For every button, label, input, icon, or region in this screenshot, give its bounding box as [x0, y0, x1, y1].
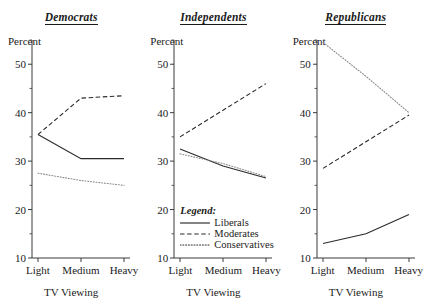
- y-tick-label: 30: [2, 155, 26, 167]
- series-line-conservatives: [38, 173, 124, 185]
- series-line-liberals: [180, 149, 266, 178]
- panel-title-independents: Independents: [142, 11, 284, 23]
- x-tick-label: Light: [311, 264, 335, 276]
- y-tick-label: 10: [144, 252, 168, 264]
- y-tick-label: 40: [287, 107, 311, 119]
- plot-svg: [32, 40, 130, 258]
- panel-title-republicans: Republicans: [285, 11, 427, 23]
- x-tick-label: Medium: [62, 264, 99, 276]
- y-tick-label: 20: [287, 204, 311, 216]
- y-tick-label: 50: [287, 58, 311, 70]
- y-tick-label: 40: [2, 107, 26, 119]
- series-line-moderates: [38, 96, 124, 135]
- y-tick-label: 20: [2, 204, 26, 216]
- legend-item-liberals: Liberals: [180, 217, 274, 228]
- y-tick-label: 30: [287, 155, 311, 167]
- panel-title-text: Republicans: [325, 11, 386, 25]
- three-panel-line-chart-figure: Democrats Percent 1020304050LightMediumH…: [0, 0, 427, 304]
- x-tick-label: Heavy: [110, 264, 139, 276]
- series-line-moderates: [180, 84, 266, 137]
- legend-item-conservatives: Conservatives: [180, 239, 274, 250]
- y-tick-label: 30: [144, 155, 168, 167]
- legend-item-moderates: Moderates: [180, 228, 274, 239]
- legend-swatch-dotted: [180, 240, 210, 249]
- legend-label-conservatives: Conservatives: [214, 239, 274, 250]
- x-tick-label: Light: [168, 264, 192, 276]
- legend: Legend: Liberals Moderates Conservatives: [180, 205, 274, 250]
- y-tick-label: 50: [144, 58, 168, 70]
- legend-swatch-dashed: [180, 229, 210, 238]
- plot-area-republicans: 1020304050LightMediumHeavy: [317, 40, 415, 258]
- legend-label-liberals: Liberals: [214, 217, 248, 228]
- x-tick-label: Heavy: [252, 264, 281, 276]
- panel-democrats: Democrats Percent 1020304050LightMediumH…: [0, 0, 142, 304]
- x-tick-label: Light: [26, 264, 50, 276]
- y-tick-label: 10: [287, 252, 311, 264]
- y-tick-label: 20: [144, 204, 168, 216]
- x-axis-label: TV Viewing: [285, 286, 427, 298]
- series-line-liberals: [38, 134, 124, 158]
- series-line-liberals: [323, 214, 409, 243]
- panel-independents: Independents Percent 1020304050LightMedi…: [142, 0, 284, 304]
- axis-lines: [32, 40, 130, 258]
- y-tick-label: 50: [2, 58, 26, 70]
- y-tick-label: 10: [2, 252, 26, 264]
- x-axis-label: TV Viewing: [142, 286, 284, 298]
- x-tick-label: Medium: [205, 264, 242, 276]
- legend-title: Legend:: [180, 205, 274, 216]
- plot-area-democrats: 1020304050LightMediumHeavy: [32, 40, 130, 258]
- panel-title-text: Democrats: [45, 11, 98, 25]
- plot-svg: [317, 40, 415, 258]
- panel-title-democrats: Democrats: [0, 11, 142, 23]
- series-line-conservatives: [180, 154, 266, 177]
- panel-title-text: Independents: [180, 11, 246, 25]
- series-line-moderates: [323, 115, 409, 168]
- x-tick-label: Heavy: [394, 264, 423, 276]
- axis-lines: [317, 40, 415, 258]
- legend-swatch-solid: [180, 218, 210, 227]
- y-tick-label: 40: [144, 107, 168, 119]
- panel-republicans: Republicans Percent 1020304050LightMediu…: [285, 0, 427, 304]
- x-axis-label: TV Viewing: [0, 286, 142, 298]
- series-line-conservatives: [323, 42, 409, 112]
- legend-label-moderates: Moderates: [214, 228, 258, 239]
- x-tick-label: Medium: [347, 264, 384, 276]
